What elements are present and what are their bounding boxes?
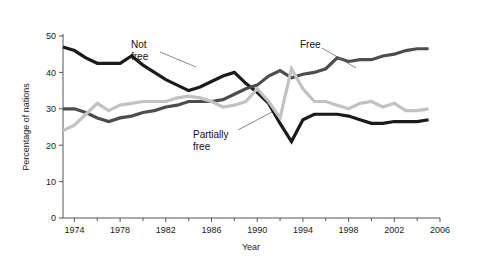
x-tick-label: 1994 [293,225,313,235]
y-tick-label: 20 [46,141,56,151]
x-tick-label: 1974 [64,225,84,235]
x-tick-label: 1998 [339,225,359,235]
chart-background [0,0,495,280]
annotation-label: Notfree [131,39,149,62]
y-tick-label: 10 [46,177,56,187]
x-tick-label: 1978 [110,225,130,235]
x-axis-title: Year [242,242,260,252]
line-chart: 01020304050 1974197819821986199019941998… [0,0,495,280]
chart-container: 01020304050 1974197819821986199019941998… [0,0,495,280]
x-tick-labels: 197419781982198619901994199820022006 [64,225,450,235]
y-tick-label: 30 [46,104,56,114]
y-tick-label: 50 [46,31,56,41]
y-tick-label: 0 [51,213,56,223]
x-tick-label: 1986 [201,225,221,235]
y-tick-label: 40 [46,68,56,78]
x-tick-label: 2006 [430,225,450,235]
x-tick-label: 2002 [384,225,404,235]
x-tick-label: 1990 [247,225,267,235]
y-axis-title: Percentage of nations [21,83,31,171]
annotation-label: Free [300,39,321,50]
x-tick-label: 1982 [156,225,176,235]
